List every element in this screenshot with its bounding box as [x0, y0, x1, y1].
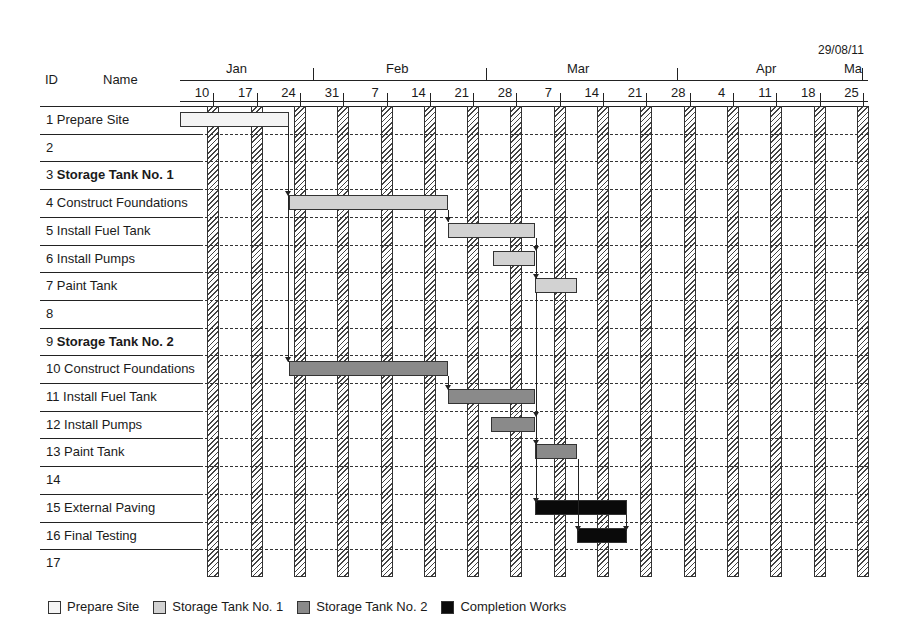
legend-item: Storage Tank No. 2: [297, 599, 427, 614]
week-tick: [257, 93, 258, 106]
task-row-label: 3 Storage Tank No. 1: [46, 167, 174, 182]
task-id: 8: [46, 306, 53, 321]
week-tick: [603, 93, 604, 106]
task-id: 2: [46, 140, 53, 155]
legend-label: Completion Works: [460, 599, 566, 614]
week-tick: [473, 93, 474, 106]
week-label: 4: [713, 85, 731, 100]
week-label: 10: [193, 85, 211, 100]
row-gridline: [200, 355, 868, 356]
arrow-down-icon: [623, 526, 629, 531]
task-row-label: 13 Paint Tank: [46, 444, 125, 459]
row-gridline: [200, 189, 868, 190]
task-name: Prepare Site: [53, 112, 129, 127]
week-label: 21: [626, 85, 644, 100]
task-id: 12: [46, 417, 60, 432]
task-row-label: 10 Construct Foundations: [46, 361, 195, 376]
name-column-header: Name: [103, 72, 138, 87]
task-name: Storage Tank No. 2: [53, 334, 173, 349]
month-tick: [862, 68, 863, 81]
task-row-label: 6 Install Pumps: [46, 251, 135, 266]
weekend-band: [684, 106, 696, 577]
week-tick: [300, 93, 301, 106]
weekend-band: [640, 106, 652, 577]
dependency-line: [536, 293, 537, 503]
week-tick: [776, 93, 777, 106]
arrow-down-icon: [445, 385, 451, 390]
task-name: Install Pumps: [60, 417, 142, 432]
task-bar[interactable]: [289, 361, 448, 376]
task-bar[interactable]: [289, 195, 448, 210]
legend: Prepare SiteStorage Tank No. 1Storage Ta…: [48, 597, 580, 615]
row-divider: [40, 522, 200, 523]
task-id: 10: [46, 361, 60, 376]
task-row-label: 5 Install Fuel Tank: [46, 223, 151, 238]
week-label: 24: [280, 85, 298, 100]
week-axis-line: [180, 101, 868, 102]
week-tick: [646, 93, 647, 106]
legend-swatch: [441, 601, 454, 614]
month-label: Jan: [226, 61, 247, 76]
row-divider: [40, 466, 200, 467]
week-label: 21: [453, 85, 471, 100]
row-divider: [40, 272, 200, 273]
task-name: Final Testing: [60, 528, 136, 543]
weekend-band: [337, 106, 349, 577]
month-tick: [677, 68, 678, 81]
week-label: 7: [539, 85, 557, 100]
task-bar[interactable]: [448, 389, 535, 404]
task-row-label: 16 Final Testing: [46, 528, 137, 543]
task-row-label: 9 Storage Tank No. 2: [46, 334, 174, 349]
week-label: 25: [843, 85, 861, 100]
weekend-band: [727, 106, 739, 577]
arrow-down-icon: [285, 357, 291, 362]
row-gridline: [200, 494, 868, 495]
task-bar[interactable]: [491, 417, 535, 432]
task-name: Construct Foundations: [60, 361, 194, 376]
week-label: 18: [799, 85, 817, 100]
task-bar[interactable]: [535, 444, 577, 459]
task-id: 15: [46, 500, 60, 515]
row-divider: [40, 438, 200, 439]
row-divider: [40, 189, 200, 190]
row-gridline: [200, 383, 868, 384]
row-divider: [40, 217, 200, 218]
week-tick: [213, 93, 214, 106]
weekend-band: [510, 106, 522, 577]
row-gridline: [200, 549, 868, 550]
task-bar[interactable]: [577, 528, 627, 543]
row-divider: [40, 161, 200, 162]
task-row-label: 14: [46, 472, 60, 487]
task-name: Storage Tank No. 1: [53, 167, 173, 182]
task-bar[interactable]: [535, 278, 577, 293]
legend-item: Storage Tank No. 1: [153, 599, 283, 614]
row-divider: [40, 328, 200, 329]
task-id: 16: [46, 528, 60, 543]
week-tick: [690, 93, 691, 106]
row-divider: [40, 245, 200, 246]
month-label: Feb: [386, 61, 408, 76]
task-id: 13: [46, 444, 60, 459]
task-row-label: 15 External Paving: [46, 500, 155, 515]
task-row-label: 12 Install Pumps: [46, 417, 142, 432]
weekend-band: [251, 106, 263, 577]
task-bar[interactable]: [493, 251, 535, 266]
task-row-label: 8: [46, 306, 53, 321]
legend-item: Completion Works: [441, 599, 566, 614]
arrow-down-icon: [533, 498, 539, 503]
task-bar[interactable]: [535, 500, 627, 515]
task-bar[interactable]: [180, 112, 289, 127]
row-gridline: [200, 134, 868, 135]
legend-label: Prepare Site: [67, 599, 139, 614]
weekend-band: [207, 106, 219, 577]
week-label: 31: [323, 85, 341, 100]
task-name: Install Fuel Tank: [60, 389, 157, 404]
week-tick: [516, 93, 517, 106]
dependency-line: [578, 459, 579, 531]
task-row-label: 2: [46, 140, 53, 155]
month-axis-line: [180, 80, 868, 81]
row-gridline: [200, 522, 868, 523]
task-bar[interactable]: [448, 223, 535, 238]
arrow-down-icon: [533, 274, 539, 279]
row-divider: [40, 549, 200, 550]
